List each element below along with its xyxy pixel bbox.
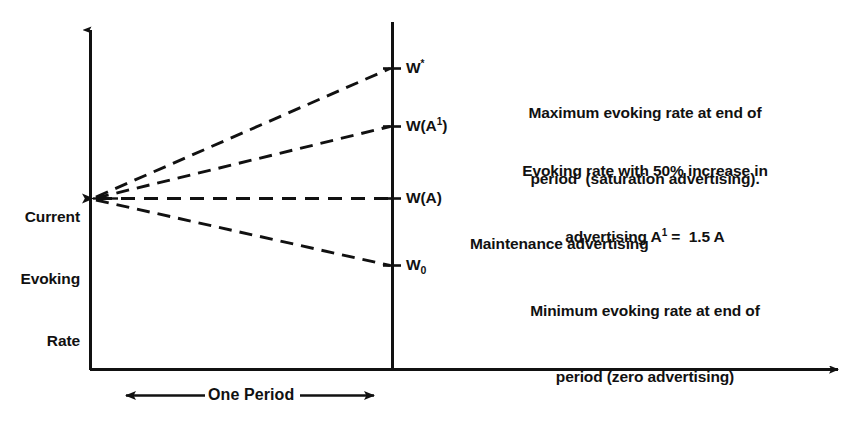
endpoint-label-w-star: W* bbox=[406, 59, 424, 77]
description-w-zero-line-2: period (zero advertising) bbox=[470, 366, 820, 388]
endpoint-label-w-a: W(A) bbox=[406, 189, 442, 207]
endpoint-label-w-a1: W(A1) bbox=[406, 117, 447, 135]
current-evoking-rate-label: Current Evoking Rate bbox=[0, 166, 80, 393]
evoking-rate-diagram: Current Evoking Rate W* W(A1) W(A) W0 Ma… bbox=[0, 0, 863, 421]
trajectory-w-zero bbox=[96, 200, 390, 266]
description-w-a1-line-1: Evoking rate with 50% increase in bbox=[470, 160, 820, 182]
endpoint-w-a1-suffix: ) bbox=[442, 117, 447, 134]
endpoint-w-star-base: W bbox=[406, 59, 421, 76]
current-rate-line-2: Evoking bbox=[0, 269, 80, 290]
endpoint-w-zero-sub: 0 bbox=[421, 264, 427, 276]
current-rate-line-1: Current bbox=[0, 207, 80, 228]
trajectory-w-a1 bbox=[96, 127, 390, 199]
endpoint-w-star-sup: * bbox=[421, 58, 425, 69]
description-w-zero: Minimum evoking rate at end of period (z… bbox=[470, 256, 820, 421]
current-rate-line-3: Rate bbox=[0, 331, 80, 352]
endpoint-w-a1-prefix: W(A bbox=[406, 117, 437, 134]
description-w-zero-line-1: Minimum evoking rate at end of bbox=[470, 300, 820, 322]
endpoint-label-w-zero: W0 bbox=[406, 256, 426, 274]
trajectory-w-star bbox=[96, 69, 390, 198]
endpoint-w-zero-base: W bbox=[406, 256, 421, 273]
one-period-caption: One Period bbox=[208, 386, 294, 405]
description-w-a-line-1: Maintenance advertising bbox=[470, 233, 820, 255]
